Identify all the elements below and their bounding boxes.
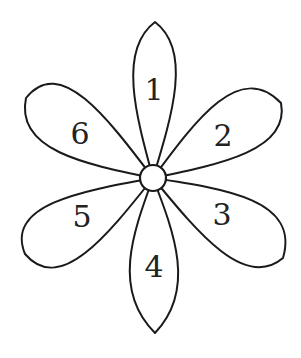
flower-center — [140, 165, 166, 191]
petal-label-3: 3 — [212, 197, 231, 232]
flower-diagram: 123456 — [0, 0, 301, 358]
petal-label-1: 1 — [144, 72, 163, 107]
petal-label-2: 2 — [213, 118, 232, 153]
petal-label-5: 5 — [72, 199, 91, 234]
petal-label-6: 6 — [70, 116, 89, 151]
petal-label-4: 4 — [144, 249, 163, 284]
